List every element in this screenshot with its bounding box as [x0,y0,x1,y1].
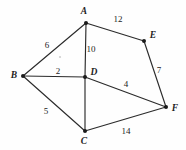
vertex-dot-e [142,39,146,43]
edge-b-c [23,76,85,131]
edge-weight-d-f: 4 [124,80,129,89]
vertex-label-b: B [11,71,17,81]
edge-weight-a-e: 12 [114,15,123,24]
vertex-label-c: C [81,137,87,147]
edge-weight-b-d: 2 [56,67,61,76]
edge-weight-a-b: 6 [45,41,50,50]
graph-figure: 61012254714ABCDEF [0,0,186,150]
vertex-dot-a [84,21,88,25]
edge-weight-c-f: 14 [122,127,131,136]
edge-weight-a-d: 10 [87,45,96,54]
vertex-label-f: F [172,104,178,114]
vertex-dot-c [83,129,87,133]
edge-e-f [144,41,166,107]
edge-weight-e-f: 7 [157,66,162,75]
vertex-dot-b [21,74,25,78]
edge-a-b [23,23,86,76]
vertex-label-a: A [81,7,87,17]
edge-b-d [23,76,85,77]
vertex-dot-f [164,105,168,109]
edge-a-e [86,23,144,41]
vertex-label-e: E [150,31,156,41]
vertex-dot-d [83,75,87,79]
vertex-label-d: D [91,68,98,78]
scan-speck [59,56,61,58]
edge-weight-b-c: 5 [44,107,49,116]
